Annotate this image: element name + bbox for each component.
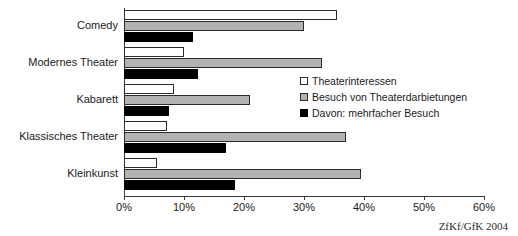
x-tick-label: 60% [473, 201, 495, 213]
category-label: Klassisches Theater [0, 130, 118, 142]
category-label: Modernes Theater [0, 56, 118, 68]
bar-row [124, 47, 484, 57]
source-credit: ZfKf/GfK 2004 [439, 220, 508, 232]
bar-row [124, 121, 484, 131]
bar-2 [124, 32, 193, 42]
bar-2 [124, 106, 169, 116]
bar-1 [124, 169, 361, 179]
bar-row [124, 10, 484, 20]
bar-group [124, 158, 484, 190]
top-crop-strip [0, 0, 518, 5]
bar-row [124, 32, 484, 42]
x-tick-label: 10% [173, 201, 195, 213]
x-tick-label: 20% [233, 201, 255, 213]
x-tick [364, 196, 365, 200]
bar-row [124, 169, 484, 179]
legend-swatch-icon [300, 77, 308, 85]
category-label: Kabarett [0, 93, 118, 105]
bar-1 [124, 95, 250, 105]
bar-row [124, 132, 484, 142]
legend-item-theaterinteressen: Theaterinteressen [300, 73, 467, 89]
x-tick [124, 196, 125, 200]
bar-group [124, 10, 484, 42]
bar-2 [124, 143, 226, 153]
legend-label: Besuch von Theaterdarbietungen [312, 89, 467, 105]
x-tick-label: 30% [293, 201, 315, 213]
category-label: Comedy [0, 19, 118, 31]
x-tick [244, 196, 245, 200]
bar-row [124, 180, 484, 190]
bar-0 [124, 10, 337, 20]
legend-item-mehrfacher-besuch: Davon: mehrfacher Besuch [300, 105, 467, 121]
chart-container: ComedyModernes TheaterKabarettKlassische… [0, 0, 518, 236]
legend-label: Theaterinteressen [312, 73, 397, 89]
x-tick [304, 196, 305, 200]
x-tick-label: 40% [353, 201, 375, 213]
bar-2 [124, 69, 198, 79]
bar-1 [124, 21, 304, 31]
x-tick [484, 196, 485, 200]
bar-row [124, 58, 484, 68]
bar-0 [124, 84, 174, 94]
bar-row [124, 158, 484, 168]
chart-legend: Theaterinteressen Besuch von Theaterdarb… [300, 73, 467, 121]
bar-0 [124, 121, 167, 131]
bar-0 [124, 47, 184, 57]
bar-0 [124, 158, 157, 168]
x-tick-label: 0% [116, 201, 132, 213]
legend-label: Davon: mehrfacher Besuch [312, 105, 439, 121]
category-label: Kleinkunst [0, 167, 118, 179]
legend-swatch-icon [300, 93, 308, 101]
bar-row [124, 21, 484, 31]
bar-row [124, 143, 484, 153]
bar-1 [124, 58, 322, 68]
x-tick [184, 196, 185, 200]
bar-2 [124, 180, 235, 190]
legend-item-besuch: Besuch von Theaterdarbietungen [300, 89, 467, 105]
x-tick-label: 50% [413, 201, 435, 213]
bar-1 [124, 132, 346, 142]
legend-swatch-icon [300, 109, 308, 117]
bar-group [124, 121, 484, 153]
x-tick [424, 196, 425, 200]
